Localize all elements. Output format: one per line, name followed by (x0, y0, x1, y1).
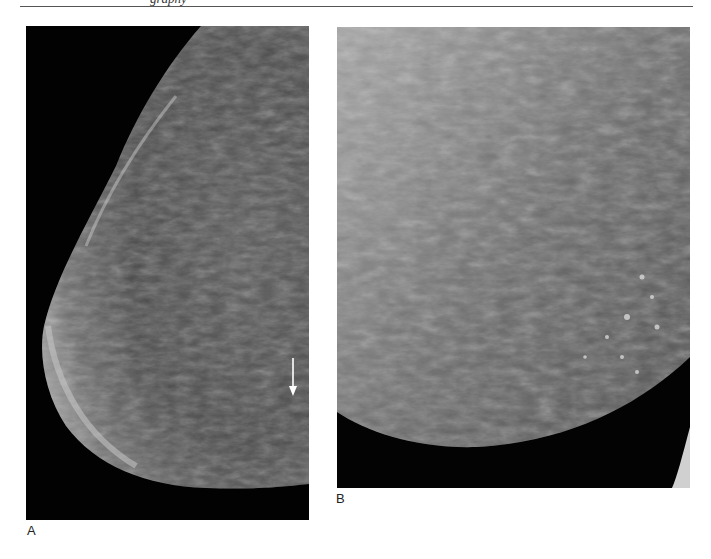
figure-a-mammogram (26, 26, 309, 520)
header-rule (20, 6, 693, 7)
figure-b-mammogram-magnified (337, 27, 690, 488)
figure-label-b: B (336, 491, 345, 506)
figure-label-a: A (27, 523, 36, 538)
